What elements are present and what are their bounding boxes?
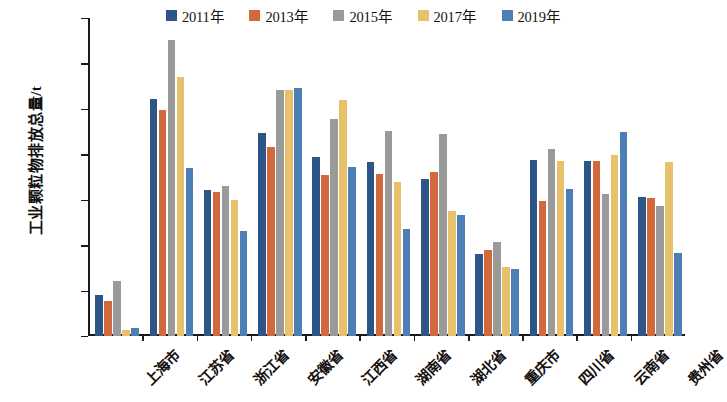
bar-浙江省-2015年 [222,186,230,336]
x-tick-mark [468,336,470,341]
y-axis-line [88,18,90,336]
bar-湖南省-2019年 [403,229,411,336]
bar-浙江省-2017年 [231,200,239,336]
bar-云南省-2017年 [611,155,619,336]
x-label-重庆市: 重庆市 [519,344,564,389]
bar-江西省-2011年 [312,157,320,336]
y-tick-mark [81,154,88,155]
bar-group [638,18,682,336]
y-tick-mark [81,18,88,19]
bar-上海市-2017年 [122,330,130,336]
x-label-湖南省: 湖南省 [411,344,456,389]
bar-江西省-2017年 [339,100,347,336]
x-label-上海市: 上海市 [139,344,184,389]
x-label-四川省: 四川省 [574,344,619,389]
bar-江苏省-2015年 [168,40,176,336]
bar-group [421,18,465,336]
bar-重庆市-2013年 [484,250,492,336]
x-label-浙江省: 浙江省 [248,344,293,389]
y-axis-title: 工业颗粒物排放总量/t [24,31,45,291]
bar-湖南省-2011年 [367,162,375,336]
x-label-安徽省: 安徽省 [302,344,347,389]
x-tick-mark [197,336,199,341]
bar-湖北省-2017年 [448,211,456,336]
x-label-云南省: 云南省 [628,344,673,389]
bar-四川省-2013年 [539,201,547,336]
y-tick-mark [81,200,88,201]
bar-江西省-2015年 [330,119,338,336]
x-label-江西省: 江西省 [356,344,401,389]
bar-贵州省-2015年 [656,206,664,336]
bar-江西省-2019年 [348,167,356,336]
bar-安徽省-2013年 [267,147,275,336]
x-tick-mark [251,336,253,341]
x-tick-mark [631,336,633,341]
bar-安徽省-2019年 [294,88,302,336]
y-tick-mark [81,245,88,246]
plot-area: 0100000200000300000400000500000600000700… [88,18,685,336]
bar-贵州省-2017年 [665,162,673,336]
bar-安徽省-2011年 [258,133,266,336]
bar-江苏省-2017年 [177,77,185,336]
bar-浙江省-2011年 [204,190,212,336]
bar-云南省-2013年 [593,161,601,336]
x-label-贵州省: 贵州省 [682,344,727,389]
bar-贵州省-2011年 [638,197,646,336]
bar-四川省-2019年 [566,189,574,336]
bar-湖南省-2017年 [394,182,402,336]
x-label-江苏省: 江苏省 [194,344,239,389]
bar-重庆市-2015年 [493,242,501,336]
bar-湖北省-2015年 [439,134,447,336]
bar-安徽省-2015年 [276,90,284,336]
bar-云南省-2011年 [584,161,592,336]
y-tick-mark [81,63,88,64]
x-tick-mark [522,336,524,341]
bar-重庆市-2019年 [511,269,519,336]
bar-湖南省-2015年 [385,131,393,336]
bar-group [312,18,356,336]
bar-贵州省-2019年 [674,253,682,336]
bar-group [150,18,194,336]
bar-上海市-2015年 [113,281,121,336]
x-tick-mark [576,336,578,341]
bar-浙江省-2013年 [213,192,221,336]
bar-湖北省-2013年 [430,172,438,336]
bar-贵州省-2013年 [647,198,655,336]
bar-group [367,18,411,336]
bar-上海市-2019年 [131,328,139,336]
bar-上海市-2013年 [104,301,112,336]
bar-云南省-2015年 [602,194,610,336]
bar-四川省-2011年 [530,160,538,336]
bar-湖南省-2013年 [376,174,384,336]
bar-江苏省-2011年 [150,99,158,336]
bar-group [530,18,574,336]
bar-四川省-2015年 [548,149,556,336]
x-tick-mark [142,336,144,341]
y-tick-mark [81,109,88,110]
bar-group [475,18,519,336]
x-tick-mark [359,336,361,341]
bar-上海市-2011年 [95,295,103,336]
bar-group [95,18,139,336]
bar-江苏省-2019年 [186,168,194,336]
bar-浙江省-2019年 [240,231,248,336]
bar-重庆市-2011年 [475,254,483,336]
bar-安徽省-2017年 [285,90,293,336]
x-label-湖北省: 湖北省 [465,344,510,389]
y-tick-mark [81,291,88,292]
bar-湖北省-2019年 [457,215,465,336]
bar-group [584,18,628,336]
bar-group [204,18,248,336]
bar-湖北省-2011年 [421,179,429,336]
bar-重庆市-2017年 [502,267,510,336]
bar-江苏省-2013年 [159,110,167,336]
x-tick-mark [414,336,416,341]
x-tick-mark [305,336,307,341]
y-tick-mark [81,336,88,337]
bar-四川省-2017年 [557,161,565,336]
bar-云南省-2019年 [620,132,628,336]
bar-group [258,18,302,336]
bar-江西省-2013年 [321,175,329,336]
